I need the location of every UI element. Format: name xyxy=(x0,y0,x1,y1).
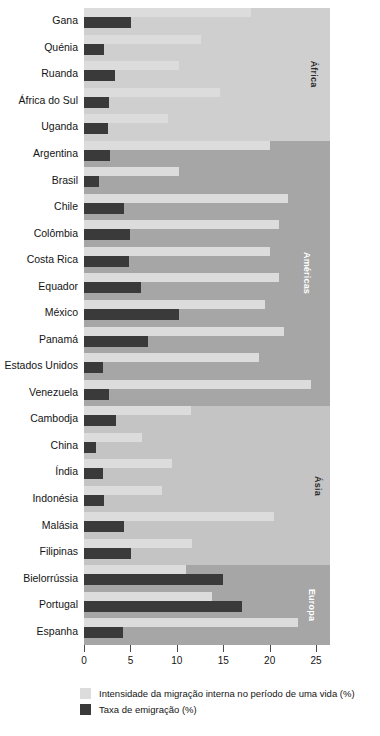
bar-emigration-rate xyxy=(84,601,242,612)
bar-internal-migration xyxy=(84,88,220,97)
bar-internal-migration xyxy=(84,565,186,574)
bar-internal-migration xyxy=(84,433,142,442)
y-axis-label: Espanha xyxy=(0,625,78,637)
bar-row xyxy=(84,220,330,247)
bar-internal-migration xyxy=(84,300,265,309)
y-axis-label: México xyxy=(0,306,78,318)
y-axis-label: Índia xyxy=(0,465,78,477)
y-axis-label: Brasil xyxy=(0,174,78,186)
x-axis-tick-label: 10 xyxy=(171,655,182,666)
bar-row xyxy=(84,592,330,619)
legend-label: Taxa de emigração (%) xyxy=(99,704,197,715)
bar-emigration-rate xyxy=(84,389,109,400)
bar-row xyxy=(84,8,330,35)
bar-emigration-rate xyxy=(84,495,104,506)
bar-emigration-rate xyxy=(84,176,99,187)
bar-row xyxy=(84,327,330,354)
bar-row xyxy=(84,565,330,592)
y-axis-label: Malásia xyxy=(0,519,78,531)
bar-row xyxy=(84,353,330,380)
y-axis-label: Ruanda xyxy=(0,67,78,79)
bar-emigration-rate xyxy=(84,256,129,267)
y-axis-label: Estados Unidos xyxy=(0,359,78,371)
y-axis-label: Uganda xyxy=(0,120,78,132)
x-axis-tick-label: 15 xyxy=(218,655,229,666)
y-axis-label: Colômbia xyxy=(0,227,78,239)
bar-emigration-rate xyxy=(84,442,96,453)
x-axis-tick-label: 5 xyxy=(128,655,134,666)
x-axis-tick-mark xyxy=(270,645,271,652)
bar-internal-migration xyxy=(84,273,279,282)
bar-row xyxy=(84,167,330,194)
y-axis-label: Argentina xyxy=(0,147,78,159)
legend-item: Intensidade da migração interna no perío… xyxy=(80,688,355,699)
bar-emigration-rate xyxy=(84,336,148,347)
y-axis-label: Equador xyxy=(0,280,78,292)
y-axis-label: Quénia xyxy=(0,41,78,53)
legend-label: Intensidade da migração interna no perío… xyxy=(99,688,355,699)
bar-emigration-rate xyxy=(84,123,108,134)
bar-row xyxy=(84,61,330,88)
x-axis-tick-mark xyxy=(84,645,85,652)
x-axis-tick-label: 25 xyxy=(311,655,322,666)
bar-emigration-rate xyxy=(84,309,179,320)
x-axis-tick-mark xyxy=(223,645,224,652)
bar-emigration-rate xyxy=(84,282,141,293)
bar-emigration-rate xyxy=(84,97,109,108)
bar-row xyxy=(84,459,330,486)
bar-emigration-rate xyxy=(84,203,124,214)
bar-emigration-rate xyxy=(84,17,131,28)
bar-row xyxy=(84,35,330,62)
bar-internal-migration xyxy=(84,327,284,336)
plot-area: ÁfricaAméricasÁsiaEuropa xyxy=(84,8,330,645)
y-axis-label: Bielorrússia xyxy=(0,572,78,584)
bar-emigration-rate xyxy=(84,362,103,373)
bar-internal-migration xyxy=(84,8,251,17)
legend-item: Taxa de emigração (%) xyxy=(80,704,355,715)
bar-internal-migration xyxy=(84,459,172,468)
x-axis-tick-label: 0 xyxy=(81,655,87,666)
x-axis-tick-label: 20 xyxy=(264,655,275,666)
bar-emigration-rate xyxy=(84,229,130,240)
y-axis-label: Portugal xyxy=(0,598,78,610)
bar-internal-migration xyxy=(84,406,191,415)
bar-internal-migration xyxy=(84,353,259,362)
bar-row xyxy=(84,273,330,300)
y-axis-label: Panamá xyxy=(0,333,78,345)
y-axis-category-labels: GanaQuéniaRuandaÁfrica do SulUgandaArgen… xyxy=(0,8,78,645)
bar-emigration-rate xyxy=(84,468,103,479)
bar-row xyxy=(84,247,330,274)
bar-internal-migration xyxy=(84,539,192,548)
y-axis-label: Filipinas xyxy=(0,545,78,557)
bar-internal-migration xyxy=(84,114,168,123)
bar-emigration-rate xyxy=(84,415,116,426)
bar-internal-migration xyxy=(84,141,270,150)
bar-emigration-rate xyxy=(84,574,223,585)
bar-internal-migration xyxy=(84,592,212,601)
x-axis-tick-mark xyxy=(177,645,178,652)
x-axis-tick-mark xyxy=(130,645,131,652)
bar-internal-migration xyxy=(84,61,179,70)
horizontal-bar-chart: GanaQuéniaRuandaÁfrica do SulUgandaArgen… xyxy=(0,0,380,736)
bar-row xyxy=(84,141,330,168)
bar-emigration-rate xyxy=(84,150,110,161)
bar-row xyxy=(84,618,330,645)
bar-internal-migration xyxy=(84,35,201,44)
y-axis-label: Indonésia xyxy=(0,492,78,504)
y-axis-label: África do Sul xyxy=(0,94,78,106)
x-axis-tick-mark xyxy=(316,645,317,652)
legend-color-swatch xyxy=(80,704,91,715)
bar-emigration-rate xyxy=(84,521,124,532)
bar-row xyxy=(84,486,330,513)
bar-row xyxy=(84,433,330,460)
y-axis-label: Chile xyxy=(0,200,78,212)
bar-internal-migration xyxy=(84,247,270,256)
bar-internal-migration xyxy=(84,194,288,203)
y-axis-label: Gana xyxy=(0,14,78,26)
y-axis-label: Costa Rica xyxy=(0,253,78,265)
bar-row xyxy=(84,300,330,327)
bar-internal-migration xyxy=(84,512,274,521)
legend-color-swatch xyxy=(80,688,91,699)
bar-emigration-rate xyxy=(84,70,115,81)
bar-row xyxy=(84,539,330,566)
